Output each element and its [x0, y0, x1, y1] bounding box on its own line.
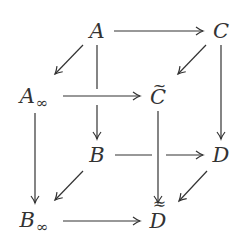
infinity-subscript: ∞	[36, 94, 49, 112]
node-a: A	[89, 21, 104, 42]
arrow-b-to-b-inf	[55, 171, 83, 200]
double-tilde-accent: ≈	[153, 200, 166, 208]
tilde-accent: ~	[153, 78, 166, 94]
node-a-infinity-label: A	[20, 84, 35, 108]
node-b-infinity-label: B	[20, 208, 35, 232]
node-c-tilde: ~ C	[150, 87, 166, 108]
node-c: C	[213, 21, 229, 42]
arrow-a-to-a-inf	[55, 45, 83, 74]
commutative-cube-diagram: A C A∞ ~ C B D B∞ ≈ D	[0, 0, 245, 246]
node-a-label: A	[89, 19, 104, 43]
node-d-tilde: ≈ D	[150, 211, 167, 232]
node-d-label: D	[213, 143, 230, 167]
node-b-label: B	[89, 143, 104, 167]
arrow-c-to-c-tilde	[178, 45, 206, 74]
node-a-infinity: A∞	[20, 86, 49, 107]
node-d: D	[213, 145, 230, 166]
infinity-subscript: ∞	[36, 218, 49, 236]
arrow-d-to-d-tilde	[179, 171, 207, 201]
node-c-label: C	[213, 19, 229, 43]
node-b: B	[89, 145, 104, 166]
node-b-infinity: B∞	[20, 210, 49, 231]
